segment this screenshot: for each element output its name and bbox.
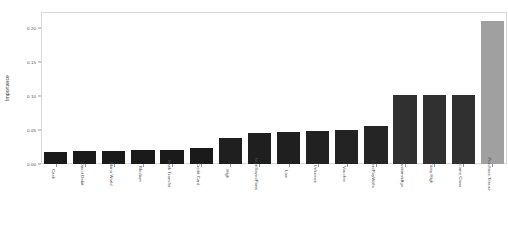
x-tick-label: Cash bbox=[51, 169, 56, 179]
bar[interactable] bbox=[335, 130, 358, 164]
x-tick-mark bbox=[259, 164, 260, 167]
x-tick-label: Purchase Tenure bbox=[487, 157, 492, 190]
x-tick-mark bbox=[230, 164, 231, 167]
x-tick-mark bbox=[143, 164, 144, 167]
bar[interactable] bbox=[248, 133, 271, 164]
x-tick-label: Bank Transfer bbox=[167, 160, 172, 187]
bar[interactable] bbox=[131, 150, 154, 164]
x-tick-mark bbox=[434, 164, 435, 167]
bar[interactable] bbox=[481, 21, 504, 164]
y-tick-label: 0.05 bbox=[27, 127, 36, 132]
bar[interactable] bbox=[277, 132, 300, 164]
x-tick-label: CustomerAge bbox=[400, 161, 405, 188]
bar-slot bbox=[277, 12, 300, 164]
x-tick-mark bbox=[201, 164, 202, 167]
x-tick-label: Voucher bbox=[342, 166, 347, 182]
y-tick-label: 0.10 bbox=[27, 93, 36, 98]
x-tick-label: Unknown bbox=[313, 165, 318, 183]
y-tick-label: 0.00 bbox=[27, 162, 36, 167]
bar-slot bbox=[364, 12, 387, 164]
bar-slot bbox=[219, 12, 242, 164]
x-tick-label: Very High bbox=[429, 164, 434, 183]
bar[interactable] bbox=[44, 152, 67, 164]
x-tick-mark bbox=[492, 164, 493, 167]
x-tick-mark bbox=[463, 164, 464, 167]
x-tick-label: Credit Card bbox=[196, 163, 201, 186]
x-tick-label: Direct Debit bbox=[80, 162, 85, 185]
y-tick-label: 0.20 bbox=[27, 25, 36, 30]
bar[interactable] bbox=[423, 95, 446, 164]
y-axis-title: Importance bbox=[4, 75, 10, 101]
x-axis: CashDirect DebitMono WorldMediumBank Tra… bbox=[41, 164, 507, 230]
x-tick-mark bbox=[405, 164, 406, 167]
bar[interactable] bbox=[160, 150, 183, 164]
bar-slot bbox=[131, 12, 154, 164]
x-tick-label: Low bbox=[284, 170, 289, 178]
x-tick-label: NumSavedParts bbox=[254, 158, 259, 190]
x-tick-label: High bbox=[225, 169, 230, 178]
bar-slot bbox=[248, 12, 271, 164]
y-axis: Importance 0.000.050.100.150.20 bbox=[0, 0, 41, 176]
x-tick-mark bbox=[172, 164, 173, 167]
x-tick-label: Income Class bbox=[458, 161, 463, 188]
x-tick-mark bbox=[56, 164, 57, 167]
x-tick-label: CardPayWalls bbox=[371, 160, 376, 188]
x-tick-mark bbox=[376, 164, 377, 167]
bar-slot bbox=[452, 12, 475, 164]
x-tick-label: Mono World bbox=[109, 162, 114, 186]
bar-slot bbox=[306, 12, 329, 164]
bar-slot bbox=[423, 12, 446, 164]
bar-slot bbox=[393, 12, 416, 164]
bar-slot bbox=[102, 12, 125, 164]
bar[interactable] bbox=[452, 95, 475, 164]
bar-slot bbox=[481, 12, 504, 164]
bar-slot bbox=[73, 12, 96, 164]
bar[interactable] bbox=[190, 148, 213, 164]
bar[interactable] bbox=[219, 138, 242, 164]
bar-slot bbox=[190, 12, 213, 164]
x-tick-label: Medium bbox=[138, 166, 143, 182]
y-tick-label: 0.15 bbox=[27, 59, 36, 64]
bar-slot bbox=[335, 12, 358, 164]
bar[interactable] bbox=[364, 126, 387, 164]
bar[interactable] bbox=[306, 131, 329, 164]
bars-layer bbox=[41, 12, 507, 164]
bar-slot bbox=[44, 12, 67, 164]
importance-bar-chart: Importance 0.000.050.100.150.20 CashDire… bbox=[0, 0, 508, 230]
bar[interactable] bbox=[393, 95, 416, 164]
x-tick-mark bbox=[289, 164, 290, 167]
bar-slot bbox=[160, 12, 183, 164]
